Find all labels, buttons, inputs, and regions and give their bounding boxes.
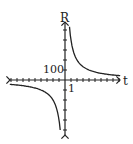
x-axis-label: t [123, 75, 128, 87]
left-branch-curve [10, 84, 60, 130]
right-branch-curve [70, 27, 121, 76]
y-tick-label: 100 [43, 64, 64, 75]
axes [10, 22, 120, 135]
y-axis-label: R [60, 12, 69, 24]
x-tick-label: 1 [68, 83, 75, 94]
